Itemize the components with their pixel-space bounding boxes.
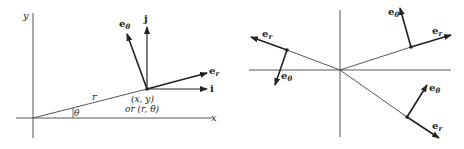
radial-line-upper-left [287,50,340,70]
point-upper-right [409,45,413,49]
right-diagram: er eθ er eθ er eθ [249,6,451,138]
i-label: i [210,83,214,94]
e-theta-label-upper-right: eθ [388,6,399,19]
angle-label: θ [74,108,80,118]
point-p [145,87,149,91]
j-label: j [143,13,148,24]
radial-line-lower-right [340,70,407,117]
e-r-vector-upper-right [411,35,451,47]
e-theta-vector [127,34,147,89]
e-r-label: er [209,65,220,78]
point-lower-right [405,115,409,119]
e-theta-label-upper-left: eθ [281,70,292,83]
e-theta-label: eθ [119,18,130,31]
e-r-label-lower-right: er [432,120,443,133]
e-r-label-upper-right: er [432,25,443,38]
radial-line-upper-right [340,47,411,70]
x-axis-label: x [211,112,217,123]
e-theta-vector-upper-right [400,8,411,47]
e-r-vector [147,73,207,89]
e-theta-vector-lower-right [407,85,427,117]
point-upper-left [285,48,289,52]
e-theta-label-lower-right: eθ [429,82,440,95]
left-diagram: y x r θ (x, y) or (r, θ) eθ j er i [16,10,220,138]
y-axis-label: y [22,10,29,21]
radius-label: r [92,91,98,102]
figure-svg: y x r θ (x, y) or (r, θ) eθ j er i er eθ… [0,0,464,149]
point-label-xy: (x, y) [131,94,154,104]
point-label-polar: or (r, θ) [125,104,160,114]
e-r-label-upper-left: er [262,28,273,41]
polar-unit-vectors-figure: y x r θ (x, y) or (r, θ) eθ j er i er eθ… [0,0,464,149]
